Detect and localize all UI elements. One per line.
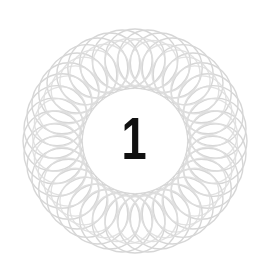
rosette-center-disc (83, 89, 187, 193)
chapter-opener-page: 1 (0, 0, 268, 278)
spirograph-rosette-ornament (0, 0, 268, 278)
